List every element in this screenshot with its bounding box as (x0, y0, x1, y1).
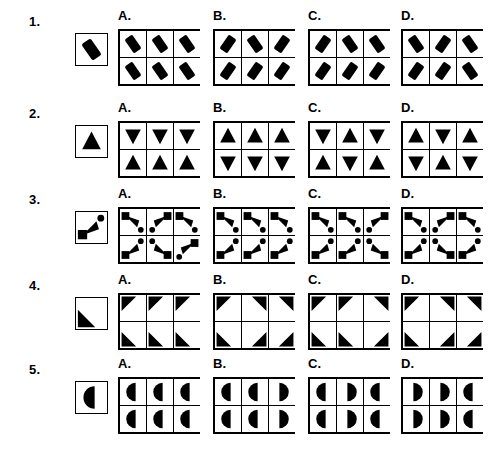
option-grid-B[interactable] (213, 377, 295, 434)
option-cell (403, 406, 429, 432)
option-grid-B[interactable] (213, 29, 295, 86)
option-letter-A[interactable]: A. (118, 272, 131, 287)
cluster-up-right-icon (457, 236, 483, 262)
halfmoon-left-icon (215, 406, 241, 432)
option-letter-B[interactable]: B. (213, 186, 226, 201)
option-cell (430, 58, 456, 84)
cluster-down-right-icon (310, 209, 336, 235)
option-letter-D[interactable]: D. (401, 100, 414, 115)
option-letter-B[interactable]: B. (213, 272, 226, 287)
option-grid-C[interactable] (308, 207, 390, 264)
cluster-down-left-icon (147, 209, 173, 235)
problem-number: 1. (29, 14, 40, 29)
option-letter-B[interactable]: B. (213, 100, 226, 115)
option-letter-C[interactable]: C. (308, 356, 321, 371)
halfmoon-right-icon (430, 406, 456, 432)
option-letter-A[interactable]: A. (118, 8, 131, 23)
option-letter-A[interactable]: A. (118, 100, 131, 115)
option-grid-A[interactable] (118, 121, 200, 178)
option-cell (269, 209, 295, 235)
option-grid-D[interactable] (401, 29, 483, 86)
option-grid-B[interactable] (213, 207, 295, 264)
option-cell (337, 295, 363, 321)
corner-bottom-left-icon (147, 322, 173, 348)
option-grid-D[interactable] (401, 121, 483, 178)
option-letter-C[interactable]: C. (308, 8, 321, 23)
option-cell (147, 236, 173, 262)
option-cell (120, 406, 146, 432)
option-cell (364, 209, 390, 235)
option-grid-A[interactable] (118, 207, 200, 264)
triangle-up-icon (430, 150, 456, 176)
option-cell (430, 379, 456, 405)
problem-row-3: 3.A.B.C.D. (0, 178, 489, 264)
option-letter-A[interactable]: A. (118, 356, 131, 371)
option-cell (337, 209, 363, 235)
option-cell (337, 322, 363, 348)
bar-rot35-icon (269, 31, 295, 57)
option-cell (269, 236, 295, 262)
halfmoon-left-icon (310, 379, 336, 405)
option-letter-B[interactable]: B. (213, 356, 226, 371)
problem-row-5: 5.A.B.C.D. (0, 348, 489, 438)
option-grid-D[interactable] (401, 293, 483, 350)
option-letter-D[interactable]: D. (401, 186, 414, 201)
option-letter-A[interactable]: A. (118, 186, 131, 201)
option-grid-A[interactable] (118, 377, 200, 434)
halfmoon-right-icon (337, 406, 363, 432)
option-cell (215, 58, 241, 84)
key-cell (75, 381, 108, 414)
cluster-up-right-icon (310, 236, 336, 262)
option-cell (310, 295, 336, 321)
option-letter-C[interactable]: C. (308, 272, 321, 287)
option-cell (310, 209, 336, 235)
halfmoon-left-icon (215, 379, 241, 405)
option-cell (174, 123, 200, 149)
option-cell (337, 236, 363, 262)
bar-rot-35-icon (364, 31, 390, 57)
option-cell (403, 379, 429, 405)
key-figure (75, 211, 108, 244)
option-letter-D[interactable]: D. (401, 272, 414, 287)
bar-rot35-icon (310, 31, 336, 57)
option-grid-C[interactable] (308, 121, 390, 178)
option-grid-C[interactable] (308, 377, 390, 434)
option-cell (174, 236, 200, 262)
halfmoon-right-icon (337, 379, 363, 405)
halfmoon-left-icon (147, 406, 173, 432)
option-cell (337, 58, 363, 84)
bar-rot-35-icon (403, 31, 429, 57)
bar-rot-35-icon (147, 31, 173, 57)
option-grid-B[interactable] (213, 121, 295, 178)
cluster-down-right-icon (174, 209, 200, 235)
option-cell (215, 236, 241, 262)
corner-bottom-left-icon (120, 322, 146, 348)
option-cell (215, 123, 241, 149)
triangle-up-icon (215, 123, 241, 149)
halfmoon-left-icon (120, 379, 146, 405)
corner-top-right-icon (242, 295, 268, 321)
triangle-down-icon (120, 123, 146, 149)
triangle-down-icon (310, 123, 336, 149)
option-grid-B[interactable] (213, 293, 295, 350)
option-cell (430, 322, 456, 348)
option-letter-C[interactable]: C. (308, 100, 321, 115)
option-grid-A[interactable] (118, 29, 200, 86)
option-cell (403, 295, 429, 321)
problem-row-4: 4.A.B.C.D. (0, 264, 489, 348)
bar-rot35-icon (310, 58, 336, 84)
option-grid-A[interactable] (118, 293, 200, 350)
option-cell (457, 58, 483, 84)
option-letter-D[interactable]: D. (401, 8, 414, 23)
option-cell (147, 123, 173, 149)
option-grid-D[interactable] (401, 377, 483, 434)
key-figure (75, 33, 108, 66)
option-grid-C[interactable] (308, 29, 390, 86)
option-letter-C[interactable]: C. (308, 186, 321, 201)
problem-number: 4. (29, 278, 40, 293)
option-letter-D[interactable]: D. (401, 356, 414, 371)
option-grid-C[interactable] (308, 293, 390, 350)
option-grid-D[interactable] (401, 207, 483, 264)
option-letter-B[interactable]: B. (213, 8, 226, 23)
option-cell (242, 209, 268, 235)
